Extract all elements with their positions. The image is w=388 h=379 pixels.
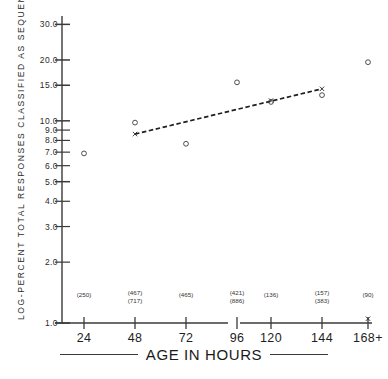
sample-size-annotation: (250) bbox=[77, 291, 91, 299]
x-tick-label: 144 bbox=[311, 331, 333, 345]
x-axis-title-label: AGE IN HOURS bbox=[146, 346, 262, 363]
plot-area bbox=[0, 0, 388, 379]
sample-size-annotation: (136) bbox=[264, 291, 278, 299]
x-tick-label: 168+ bbox=[353, 331, 383, 345]
caption-rule-right bbox=[270, 354, 328, 355]
data-points bbox=[82, 60, 371, 321]
x-tick-label: 24 bbox=[77, 331, 92, 345]
chart-figure: LOG-PERCENT TOTAL RESPONSES CLASSIFIED A… bbox=[0, 0, 388, 379]
caption-rule-left bbox=[60, 354, 138, 355]
x-tick-label: 72 bbox=[179, 331, 194, 345]
x-axis-title: AGE IN HOURS bbox=[0, 346, 388, 363]
trend-line bbox=[135, 89, 322, 134]
sample-size-annotation: (467)(717) bbox=[128, 289, 142, 304]
x-tick-label: 48 bbox=[128, 331, 143, 345]
axis-lines bbox=[55, 16, 372, 323]
sample-size-annotation: (421)(886) bbox=[230, 289, 244, 304]
x-tick-label: 96 bbox=[230, 331, 245, 345]
sample-size-annotation: (90) bbox=[362, 291, 373, 299]
sample-size-annotation: (157)(383) bbox=[315, 289, 329, 304]
sample-size-annotation: (465) bbox=[179, 291, 193, 299]
x-tick-label: 120 bbox=[260, 331, 282, 345]
